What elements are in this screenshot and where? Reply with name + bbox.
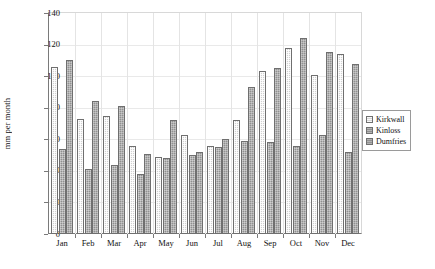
legend-swatch-kinloss [366,127,373,134]
x-tick-label: Sep [257,239,283,248]
group-separator [309,13,310,234]
legend-item-kirkwall: Kirkwall [366,114,406,125]
group-separator [231,13,232,234]
x-tick-mark [127,234,128,238]
bar-dumfries-oct [300,38,307,234]
bars-layer [49,13,361,234]
y-tick-mark [44,108,48,109]
legend-item-kinloss: Kinloss [366,125,406,136]
group-separator [179,13,180,234]
bar-kinloss-oct [293,146,300,234]
bar-dumfries-sep [274,68,281,234]
bar-kirkwall-dec [337,54,344,234]
bar-kirkwall-feb [77,119,84,234]
x-tick-mark [101,234,102,238]
bar-kinloss-dec [345,152,352,234]
x-tick-mark [179,234,180,238]
group-separator [127,13,128,234]
bar-dumfries-nov [326,52,333,234]
y-tick-mark [44,139,48,140]
bar-kinloss-jul [215,147,222,234]
bar-kinloss-sep [267,142,274,234]
group-separator [205,13,206,234]
bar-kinloss-may [163,158,170,234]
bar-kirkwall-mar [103,116,110,234]
group-separator [75,13,76,234]
legend-swatch-dumfries [366,138,373,145]
bar-kinloss-jan [59,149,66,234]
x-tick-mark [257,234,258,238]
bar-dumfries-aug [248,87,255,234]
bar-dumfries-jul [222,139,229,234]
x-tick-mark [335,234,336,238]
x-tick-mark [283,234,284,238]
legend-label: Kirkwall [376,115,404,124]
x-tick-label: Apr [127,239,153,248]
group-separator [283,13,284,234]
y-tick-mark [44,202,48,203]
x-tick-label: Jul [205,239,231,248]
bar-dumfries-may [170,120,177,234]
group-separator [101,13,102,234]
y-tick-mark [44,171,48,172]
legend: KirkwallKinlossDumfries [362,110,411,151]
legend-item-dumfries: Dumfries [366,136,406,147]
bar-kinloss-mar [111,165,118,234]
bar-dumfries-mar [118,106,125,234]
legend-label: Kinloss [376,126,400,135]
x-tick-label: Feb [75,239,101,248]
y-tick-mark [44,76,48,77]
bar-dumfries-dec [352,64,359,234]
x-tick-label: Oct [283,239,309,248]
x-tick-label: May [153,239,179,248]
bar-kirkwall-may [155,157,162,234]
x-tick-mark [309,234,310,238]
x-tick-mark [231,234,232,238]
x-tick-mark [75,234,76,238]
bar-dumfries-jan [66,60,73,234]
legend-label: Dumfries [376,137,406,146]
x-tick-label: Jun [179,239,205,248]
group-separator [257,13,258,234]
bar-kirkwall-jul [207,146,214,234]
y-axis-title: mm per month [2,98,16,149]
bar-kinloss-feb [85,169,92,234]
bar-kirkwall-jun [181,135,188,234]
bar-kirkwall-apr [129,146,136,234]
x-tick-label: Dec [335,239,361,248]
bar-kirkwall-oct [285,48,292,234]
bar-dumfries-feb [92,101,99,234]
bar-kinloss-nov [319,135,326,234]
y-tick-mark [44,13,48,14]
bar-kinloss-apr [137,174,144,234]
group-separator [335,13,336,234]
x-tick-mark [205,234,206,238]
bar-chart: mm per month 020406080100120140 JanFebMa… [0,0,435,269]
bar-kirkwall-sep [259,71,266,234]
bar-kinloss-aug [241,141,248,234]
x-tick-label: Nov [309,239,335,248]
y-tick-mark [44,234,48,235]
x-tick-label: Mar [101,239,127,248]
x-tick-mark [153,234,154,238]
bar-dumfries-apr [144,154,151,235]
bar-kirkwall-aug [233,120,240,234]
bar-kinloss-jun [189,155,196,234]
x-tick-label: Jan [49,239,75,248]
group-separator [153,13,154,234]
y-tick-mark [44,45,48,46]
bar-dumfries-jun [196,152,203,234]
bar-kirkwall-jan [51,67,58,234]
bar-kirkwall-nov [311,75,318,234]
x-tick-label: Aug [231,239,257,248]
legend-swatch-kirkwall [366,116,373,123]
